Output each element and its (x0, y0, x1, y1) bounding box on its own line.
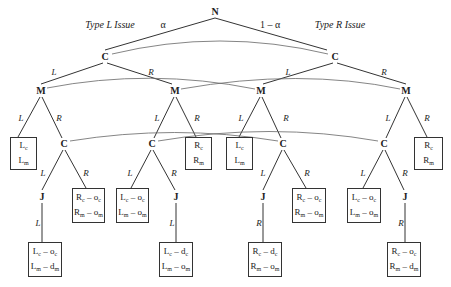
edge-label-m2-l: L (154, 114, 159, 123)
info-set-m-arc-a (47, 78, 255, 89)
c-node-3: C (60, 139, 67, 149)
edge-label-j2: L (169, 219, 174, 228)
j-node-1: J (40, 192, 45, 202)
payoff-box-lc-oc-lm-om-2: Lc – oc Lm – om (347, 188, 381, 223)
edge-label-m3-l: L (238, 114, 243, 123)
payoff-box-rc-oc-rm-dm: Rc – oc Rm – dm (387, 242, 421, 277)
m-node-3: M (256, 86, 265, 96)
info-set-m-arc-b (181, 79, 400, 90)
edge-label-c2-r: R (171, 169, 177, 178)
payoff-box-lc-lm-2: Lc Lm (226, 137, 253, 170)
edge-c3-l (263, 150, 282, 190)
payoff-box-lc-oc-lm-dm: Lc – oc Lm – dm (28, 242, 62, 277)
payoff-box-rc-oc-rm-om-1: Rc – oc Rm – om (72, 188, 105, 223)
payoff-box-lc-oc-lm-om-1: Lc – oc Lm – om (116, 188, 149, 223)
edge-label-cl-r: R (148, 68, 154, 77)
edge-label-c3-r: R (304, 169, 310, 178)
edge-label-m1-r: R (56, 114, 62, 123)
edge-c4-r (385, 150, 404, 190)
payoff-box-rc-oc-rm-om-2: Rc – oc Rm – om (292, 188, 326, 223)
edge-label-c1-r: R (83, 169, 89, 178)
c-node-6: C (380, 139, 387, 149)
edge-c3-r (284, 150, 306, 188)
edge-label-cr-r: R (381, 68, 387, 77)
alpha-prob-label: α (160, 20, 165, 30)
info-set-c-arc (112, 41, 328, 54)
edge-cl-r (107, 63, 172, 84)
edge-label-cr-l: L (285, 68, 290, 77)
payoff-box-rc-rm-2: Rc Rm (414, 137, 443, 170)
one-minus-alpha-label: 1 – α (260, 20, 280, 30)
edge-label-j4: R (398, 219, 404, 228)
payoff-box-rc-rm-1: Rc Rm (185, 137, 212, 170)
edge-c2-l (131, 150, 151, 188)
c-node-right: C (331, 52, 338, 62)
edge-label-c2-l: L (127, 169, 132, 178)
j-node-4: J (403, 192, 408, 202)
m-node-1: M (36, 86, 45, 96)
c-node-4: C (148, 139, 155, 149)
c-node-left: C (101, 52, 108, 62)
payoff-box-rc-dc-rm-om: Rc – dc Rm – om (248, 242, 282, 277)
type-l-issue-label: Type L Issue (85, 20, 135, 30)
nature-node: N (211, 7, 218, 17)
payoff-box-lc-lm-1: Lc Lm (10, 137, 37, 170)
c-node-5: C (279, 139, 286, 149)
type-r-issue-label: Type R Issue (315, 20, 365, 30)
edge-label-j1: L (35, 219, 40, 228)
edge-label-m4-l: L (385, 114, 390, 123)
edge-label-j3: R (256, 219, 262, 228)
m-node-4: M (401, 86, 410, 96)
edge-label-c3-l: L (260, 169, 265, 178)
edge-label-m2-r: R (194, 114, 200, 123)
edge-label-cl-l: L (51, 68, 56, 77)
edge-label-m3-r: R (283, 114, 289, 123)
payoff-box-lc-dc-lm-om: Lc – dc Lm – om (159, 242, 193, 277)
edge-label-m4-r: R (424, 114, 430, 123)
edge-label-c4-l: L (360, 169, 365, 178)
edge-cr-l (263, 63, 333, 84)
m-node-2: M (170, 86, 179, 96)
edge-label-c4-r: R (402, 169, 408, 178)
j-node-3: J (261, 192, 266, 202)
edge-c4-l (363, 150, 383, 188)
edge-m2-r (176, 97, 196, 137)
edge-label-m1-l: L (18, 114, 23, 123)
j-node-2: J (174, 192, 179, 202)
edge-label-c1-l: L (40, 169, 45, 178)
